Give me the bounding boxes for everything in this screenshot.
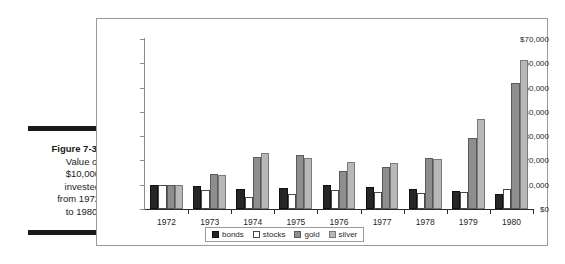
bar-stocks-1977 — [374, 192, 382, 209]
bar-silver-1980 — [520, 60, 528, 209]
bar-gold-1975 — [296, 155, 304, 209]
legend-item-bonds: bonds — [212, 230, 244, 239]
bar-chart-plot-area: $0$10,000$20,000$30,000$40,000$50,000$60… — [97, 19, 549, 247]
bar-gold-1972 — [167, 185, 175, 209]
caption-line-4: from 1972 — [28, 193, 100, 206]
bar-bonds-1973 — [193, 186, 201, 209]
bar-stocks-1974 — [245, 197, 253, 209]
legend-swatch-gold — [294, 231, 301, 238]
bar-stocks-1979 — [460, 192, 468, 209]
y-axis-tick — [140, 136, 145, 137]
bar-gold-1979 — [468, 138, 476, 209]
y-axis-tick-label: $70,000 — [505, 35, 549, 44]
x-axis-category-label: 1975 — [274, 217, 317, 227]
x-axis-line — [144, 209, 534, 210]
x-axis-tick — [317, 209, 318, 214]
caption-rule-bottom — [28, 230, 100, 235]
bar-stocks-1975 — [288, 194, 296, 209]
chart-frame: $0$10,000$20,000$30,000$40,000$50,000$60… — [96, 18, 548, 246]
chart-legend: bondsstocksgoldsilver — [205, 227, 364, 242]
bar-gold-1978 — [425, 158, 433, 209]
bar-silver-1974 — [261, 153, 269, 209]
bar-stocks-1973 — [201, 190, 209, 209]
legend-swatch-silver — [329, 231, 336, 238]
x-axis-tick — [361, 209, 362, 214]
bar-gold-1974 — [253, 157, 261, 209]
legend-item-gold: gold — [294, 230, 319, 239]
caption-line-3: invested — [28, 181, 100, 194]
bar-bonds-1976 — [323, 185, 331, 209]
y-axis-tick — [140, 185, 145, 186]
y-axis-tick — [140, 209, 145, 210]
bar-silver-1979 — [477, 119, 485, 209]
x-axis-category-label: 1979 — [447, 217, 490, 227]
legend-swatch-stocks — [253, 231, 260, 238]
x-axis-category-label: 1974 — [231, 217, 274, 227]
bar-bonds-1975 — [279, 188, 287, 209]
x-axis-category-label: 1976 — [317, 217, 360, 227]
legend-label-bonds: bonds — [222, 230, 244, 239]
bar-stocks-1978 — [417, 193, 425, 209]
x-axis-tick — [490, 209, 491, 214]
bar-silver-1978 — [433, 159, 441, 209]
bar-silver-1975 — [304, 158, 312, 209]
bar-bonds-1977 — [366, 187, 374, 209]
legend-label-stocks: stocks — [263, 230, 286, 239]
y-axis-tick — [140, 39, 145, 40]
bar-silver-1976 — [347, 162, 355, 209]
bar-silver-1977 — [390, 163, 398, 209]
bar-gold-1976 — [339, 171, 347, 209]
bar-silver-1972 — [175, 185, 183, 209]
y-axis-tick — [140, 160, 145, 161]
x-axis-category-label: 1973 — [188, 217, 231, 227]
bar-silver-1973 — [218, 175, 226, 209]
figure-number-label: Figure 7-3: — [28, 143, 100, 156]
x-axis-tick — [274, 209, 275, 214]
y-axis-tick — [140, 112, 145, 113]
figure-caption-text: Figure 7-3: Value of $10,000 invested fr… — [28, 143, 100, 219]
legend-label-silver: silver — [339, 230, 358, 239]
x-axis-tick — [188, 209, 189, 214]
bar-gold-1977 — [382, 167, 390, 209]
bar-gold-1980 — [511, 83, 519, 209]
x-axis-tick-end — [533, 209, 534, 214]
x-axis-category-label: 1977 — [361, 217, 404, 227]
legend-item-stocks: stocks — [253, 230, 286, 239]
y-axis-tick — [140, 88, 145, 89]
legend-item-silver: silver — [329, 230, 358, 239]
bar-bonds-1972 — [150, 185, 158, 209]
bar-bonds-1979 — [452, 191, 460, 209]
bar-bonds-1974 — [236, 189, 244, 209]
x-axis-category-label: 1972 — [145, 217, 188, 227]
x-axis-tick — [447, 209, 448, 214]
caption-line-1: Value of — [28, 156, 100, 169]
x-axis-category-label: 1980 — [490, 217, 533, 227]
caption-line-2: $10,000 — [28, 168, 100, 181]
bar-gold-1973 — [210, 174, 218, 209]
bar-stocks-1976 — [331, 190, 339, 209]
x-axis-tick — [231, 209, 232, 214]
x-axis-category-label: 1978 — [404, 217, 447, 227]
bar-stocks-1980 — [503, 189, 511, 209]
legend-label-gold: gold — [304, 230, 319, 239]
y-axis-tick — [140, 63, 145, 64]
bar-bonds-1978 — [409, 189, 417, 209]
caption-rule-top — [28, 126, 100, 131]
bar-stocks-1972 — [158, 185, 166, 209]
x-axis-tick — [404, 209, 405, 214]
bar-bonds-1980 — [495, 194, 503, 209]
legend-swatch-bonds — [212, 231, 219, 238]
figure-caption-block: Figure 7-3: Value of $10,000 invested fr… — [28, 126, 100, 235]
caption-line-5: to 1980. — [28, 206, 100, 219]
